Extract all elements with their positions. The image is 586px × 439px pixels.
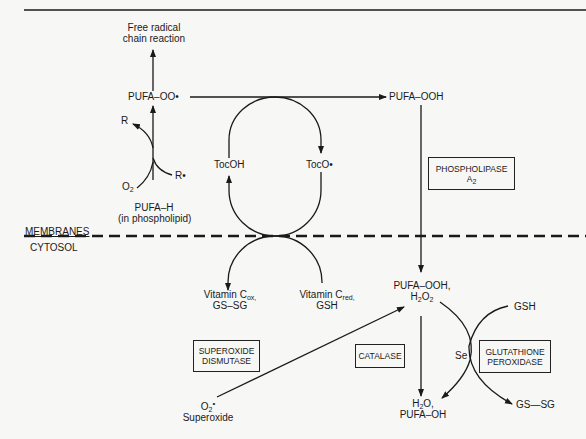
glutathione-peroxidase-box: GLUTATHIONE PEROXIDASE [479,340,551,373]
vitamin-c-ox-text: Vitamin Cox, [198,289,262,300]
vitamin-c-ox-label: Vitamin Cox, GS–SG [198,289,262,311]
selenium-label: Se [455,350,467,361]
sod-line1: SUPEROXIDE [199,346,255,356]
h2o-o: O, [423,398,434,409]
pufa-ooh: PUFA–OOH [389,91,443,102]
catalase-text: CATALASE [358,351,401,361]
arrow-tocoh-to-toco [229,97,321,158]
vitc-red-sub: red, [343,294,355,301]
h2o2-text: H2O2 [388,291,456,302]
tocoh-label: TocOH [214,159,245,170]
cytosol-label: CYTOSOL [30,242,78,253]
superoxide-symbol: O2• [180,398,236,412]
phospholipase-a2-box: PHOSPHOLIPASE A2 [428,157,515,190]
r-radical-label: R• [175,170,186,181]
superoxide-dot: • [212,399,215,408]
vitamin-c-red-text: Vitamin Cred, [295,289,359,300]
gssg-left: GS–SG [198,300,262,311]
h2o2-sub2: 2 [430,296,434,303]
diagram-lines [0,0,586,439]
h2o-text: H2O, [396,398,450,409]
diagram-canvas: Free radical chain reaction PUFA–OO• PUF… [0,0,586,439]
h2o-pufa-oh-label: H2O, PUFA–OH [396,398,450,420]
h2o2-h: H [411,291,418,302]
arrow-to-r [133,124,153,148]
vitc-ox-sub: ox, [247,294,256,301]
superoxide-dismutase-box: SUPEROXIDE DISMUTASE [193,340,260,372]
r-radical-curve [153,158,172,175]
vitc-red-main: Vitamin C [299,289,342,300]
h2o2-o: O [422,291,430,302]
pufa-ooh-text: PUFA–OOH, [388,280,456,291]
gsh-left: GSH [295,300,359,311]
pufa-h-text: PUFA–H [118,202,190,213]
free-radical-line1: Free radical [118,22,190,33]
pufa-oo-radical: PUFA–OO• [128,91,179,102]
pufa-h-note: (in phospholipid) [118,213,190,224]
pufa-oh-text: PUFA–OH [396,409,450,420]
phospholipase-text: PHOSPHOLIPASE [436,164,508,174]
gsh-right-label: GSH [514,301,536,312]
gssg-right-label: GS—SG [516,399,555,410]
gpx-line1: GLUTATHIONE [485,347,544,357]
pufa-ooh-h2o2-label: PUFA–OOH, H2O2 [388,280,456,302]
membranes-label: MEMBRANES [25,226,89,237]
superoxide-text: Superoxide [180,412,236,423]
catalase-box: CATALASE [355,344,405,368]
toco-radical-label: TocO• [306,159,333,170]
phospholipase-a2-text: A2 [467,174,477,184]
sod-line2: DISMUTASE [202,356,251,366]
o2-text: O [122,181,130,192]
free-radical-label: Free radical chain reaction [118,22,190,44]
vitamin-c-red-label: Vitamin Cred, GSH [295,289,359,311]
o2-sub: 2 [130,186,134,193]
pufa-h-label: PUFA–H (in phospholipid) [118,202,190,224]
o2-label: O2 [122,181,134,192]
r-label: R [121,115,128,126]
gpx-line2: PEROXIDASE [487,357,542,367]
arrow-toco-to-tocoh [229,172,321,236]
free-radical-line2: chain reaction [118,33,190,44]
arrow-vitc-red-to-ox [228,236,322,290]
o2-curve [137,162,153,188]
vitc-ox-main: Vitamin C [204,289,247,300]
phospholipase-sub: 2 [472,178,476,185]
superoxide-o: O [201,401,209,412]
superoxide-label: O2• Superoxide [180,398,236,423]
